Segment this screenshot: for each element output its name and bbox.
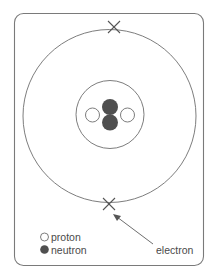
diagram-frame <box>15 14 204 266</box>
proton-right <box>121 108 135 122</box>
proton-legend-icon <box>41 233 49 241</box>
legend-neutron-label: neutron <box>51 244 87 256</box>
neutron-top <box>102 99 118 115</box>
proton-left <box>86 108 100 122</box>
neutron-bottom <box>102 115 118 131</box>
legend-proton-label: proton <box>51 231 81 243</box>
atom-diagram: electron proton neutron <box>0 0 213 280</box>
electron-label: electron <box>156 244 194 256</box>
neutron-legend-icon <box>40 245 49 254</box>
